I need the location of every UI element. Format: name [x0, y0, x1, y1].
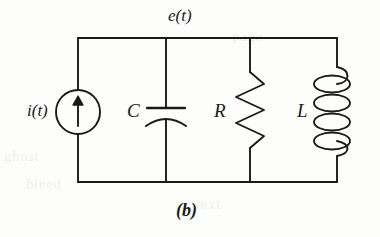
- figure-container: ghost bleed page text: [0, 0, 380, 237]
- inductor-loop-2: [314, 95, 350, 112]
- inductor-loop-3: [314, 114, 350, 131]
- current-source-arrow-head: [73, 96, 83, 105]
- figure-caption: (b): [176, 200, 197, 221]
- inductor-loop-4: [314, 133, 350, 150]
- resistor-zigzag: [236, 72, 264, 148]
- capacitor-label: C: [127, 100, 140, 122]
- node-voltage-label: e(t): [168, 6, 192, 26]
- current-source-label: i(t): [27, 101, 48, 121]
- resistor-label: R: [214, 100, 226, 122]
- inductor-label: L: [297, 100, 308, 122]
- inductor-loop-1: [314, 76, 350, 93]
